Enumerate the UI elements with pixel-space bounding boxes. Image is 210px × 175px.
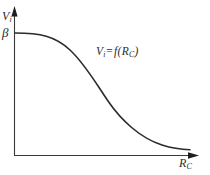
x-axis-label-main: R	[179, 156, 187, 170]
x-axis-label: RC	[179, 157, 192, 169]
graph-figure: Vi β RC Vi=f(RC)	[0, 0, 210, 175]
curve-equation-annotation: Vi=f(RC)	[96, 46, 139, 58]
y-axis-label-main: V	[2, 9, 10, 23]
y-axis-label: Vi	[2, 10, 12, 22]
equation-lhs-subscript: i	[103, 50, 105, 59]
equation-operator: =	[106, 45, 114, 57]
y-axis-label-subscript: i	[10, 15, 12, 24]
equation-arg-subscript: C	[129, 50, 134, 59]
graph-canvas	[0, 0, 210, 175]
equation-arg-main: R	[122, 45, 129, 57]
y-intercept-label: β	[2, 26, 9, 39]
y-axis-arrowhead	[11, 6, 17, 17]
equation-close-paren: )	[134, 45, 138, 57]
x-axis-label-subscript: C	[187, 162, 193, 171]
